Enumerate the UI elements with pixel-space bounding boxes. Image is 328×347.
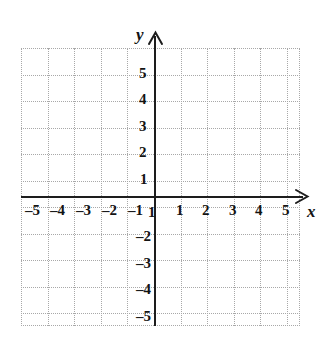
gridline-horizontal: [21, 287, 300, 288]
x-tick-label: –1: [128, 203, 143, 218]
gridline-vertical: [181, 48, 182, 326]
gridline-horizontal: [21, 48, 300, 49]
y-tick-label: 1: [140, 172, 148, 187]
x-tick-label: 3: [229, 203, 237, 218]
gridline-horizontal: [21, 260, 300, 261]
gridline-horizontal: [21, 128, 300, 129]
gridline-vertical: [74, 48, 75, 326]
gridline-vertical: [21, 48, 22, 326]
gridline-vertical: [234, 48, 235, 326]
grid-major: [21, 48, 300, 326]
y-axis-arrow-icon: [148, 31, 163, 45]
y-tick-label: 2: [139, 145, 147, 160]
coordinate-plane: y x –5 –4 –3 –2 –1 1 2 3 4 5 5 4 3 2 1 1…: [0, 0, 328, 347]
gridline-vertical: [287, 48, 288, 326]
y-axis-line: [154, 36, 156, 326]
gridline-horizontal: [21, 101, 300, 102]
gridline-vertical: [127, 48, 128, 326]
gridline-horizontal: [21, 325, 300, 326]
x-tick-label: –2: [102, 203, 117, 218]
gridline-horizontal: [21, 75, 300, 76]
x-tick-label: –4: [50, 203, 65, 218]
gridline-horizontal: [21, 313, 300, 314]
x-axis-label: x: [307, 203, 316, 220]
gridline-vertical: [207, 48, 208, 326]
x-tick-label: –5: [25, 203, 40, 218]
y-tick-label: –3: [136, 256, 151, 271]
gridline-vertical: [299, 48, 300, 326]
y-tick-label: 5: [139, 66, 147, 81]
y-tick-label: 1: [148, 205, 156, 220]
x-tick-label: –3: [76, 203, 91, 218]
x-axis-line: [21, 196, 303, 198]
gridline-horizontal: [21, 181, 300, 182]
y-tick-label: –2: [136, 229, 151, 244]
y-tick-label: 3: [139, 119, 147, 134]
gridline-vertical: [101, 48, 102, 326]
gridline-horizontal: [21, 154, 300, 155]
gridline-vertical: [260, 48, 261, 326]
x-tick-label: 2: [202, 203, 210, 218]
gridline-vertical: [48, 48, 49, 326]
y-axis-label: y: [136, 26, 144, 43]
y-tick-label: –4: [136, 282, 151, 297]
x-tick-label: 1: [176, 203, 184, 218]
x-tick-label: 5: [282, 203, 290, 218]
x-tick-label: 4: [255, 203, 263, 218]
y-tick-label: 4: [139, 92, 147, 107]
y-tick-label: –5: [136, 309, 151, 324]
gridline-horizontal: [21, 234, 300, 235]
